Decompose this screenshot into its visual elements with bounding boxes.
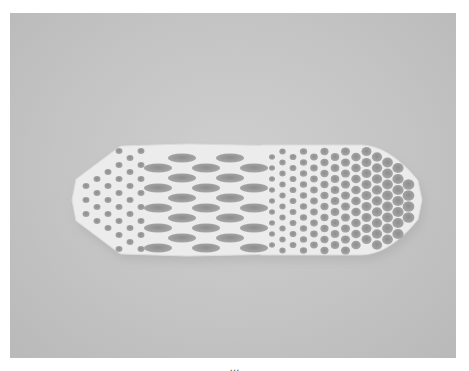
figure-caption: … bbox=[0, 361, 469, 371]
photo-frame bbox=[10, 13, 456, 358]
lattice-object-illustration bbox=[10, 13, 456, 358]
